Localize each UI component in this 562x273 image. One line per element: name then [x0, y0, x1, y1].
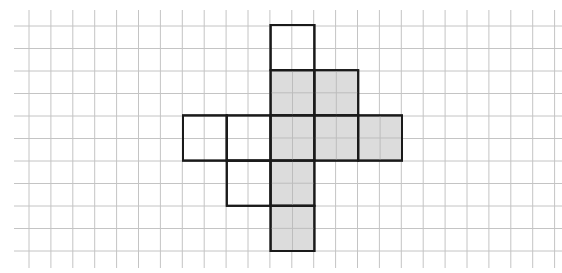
unshaded-square [227, 161, 271, 206]
unshaded-square [271, 25, 315, 70]
unshaded-square [183, 115, 227, 160]
polyomino-net [183, 25, 402, 251]
grid-diagram [0, 0, 562, 273]
unshaded-square [227, 115, 271, 160]
